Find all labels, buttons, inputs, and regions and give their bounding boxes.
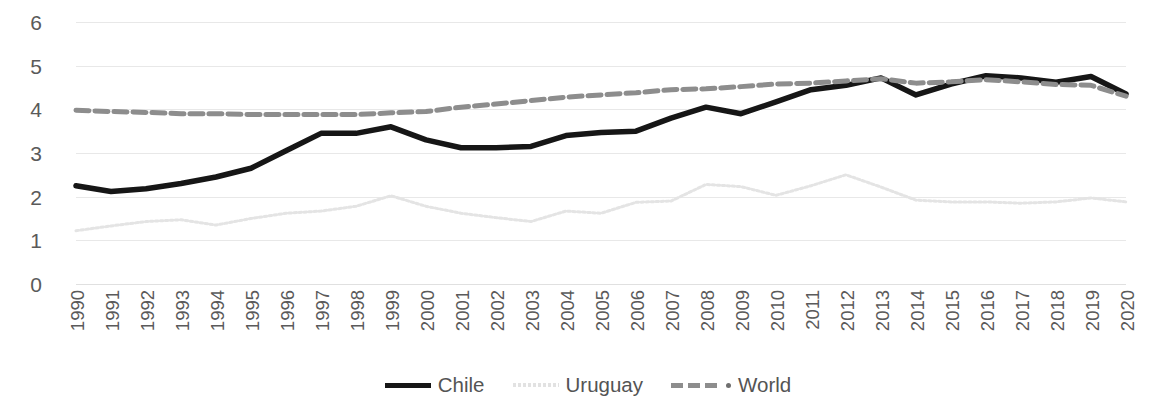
x-tick-label: 1991 (104, 290, 123, 331)
x-tick-label: 2016 (979, 290, 998, 331)
gridline (76, 284, 1126, 285)
chart-legend: ChileUruguayWorld (0, 368, 1176, 402)
x-tick-label: 2020 (1119, 290, 1138, 331)
y-tick-label: 3 (30, 143, 42, 164)
x-tick-label: 2003 (524, 290, 543, 331)
y-tick-label: 6 (30, 12, 42, 33)
x-tick-label: 1997 (314, 290, 333, 331)
x-tick-label: 2009 (734, 290, 753, 331)
x-tick-label: 2005 (594, 290, 613, 331)
series-line-uruguay (76, 175, 1126, 231)
x-tick-label: 2008 (699, 290, 718, 331)
y-tick-label: 5 (30, 55, 42, 76)
y-tick-label: 4 (30, 99, 42, 120)
x-tick-label: 1999 (384, 290, 403, 331)
x-tick-label: 2014 (909, 290, 928, 331)
x-tick-label: 2007 (664, 290, 683, 331)
legend-item-uruguay[interactable]: Uruguay (513, 375, 644, 396)
plot-area (76, 22, 1126, 284)
legend-item-world[interactable]: World (671, 375, 791, 396)
y-tick-label: 0 (30, 274, 42, 295)
legend-label: Chile (438, 375, 485, 396)
x-tick-label: 2015 (944, 290, 963, 331)
x-tick-label: 2001 (454, 290, 473, 331)
x-tick-label: 2018 (1049, 290, 1068, 331)
legend-label: Uruguay (566, 375, 644, 396)
x-axis: 1990199119921993199419951996199719981999… (76, 290, 1126, 360)
series-line-world (76, 79, 1126, 115)
x-tick-label: 2012 (839, 290, 858, 331)
y-tick-label: 2 (30, 186, 42, 207)
legend-swatch-icon (671, 383, 717, 388)
x-tick-label: 1994 (209, 290, 228, 331)
legend-swatch-icon (385, 383, 431, 388)
x-tick-label: 2010 (769, 290, 788, 331)
legend-item-chile[interactable]: Chile (385, 375, 485, 396)
x-tick-label: 1990 (69, 290, 88, 331)
x-tick-label: 1992 (139, 290, 158, 331)
x-tick-label: 1993 (174, 290, 193, 331)
x-tick-label: 2004 (559, 290, 578, 331)
x-tick-label: 1998 (349, 290, 368, 331)
legend-label: World (738, 375, 791, 396)
line-chart: 0123456 19901991199219931994199519961997… (0, 0, 1176, 416)
x-tick-label: 2019 (1084, 290, 1103, 331)
x-tick-label: 1995 (244, 290, 263, 331)
x-tick-label: 2000 (419, 290, 438, 331)
x-tick-label: 2006 (629, 290, 648, 331)
x-tick-label: 2013 (874, 290, 893, 331)
legend-swatch-icon (513, 383, 559, 387)
x-tick-label: 2002 (489, 290, 508, 331)
y-tick-label: 1 (30, 230, 42, 251)
x-tick-label: 2017 (1014, 290, 1033, 331)
x-tick-label: 1996 (279, 290, 298, 331)
x-tick-label: 2011 (804, 290, 823, 330)
legend-marker-dot-icon (726, 383, 731, 388)
series-layer (76, 22, 1126, 284)
y-axis: 0123456 (0, 0, 70, 310)
